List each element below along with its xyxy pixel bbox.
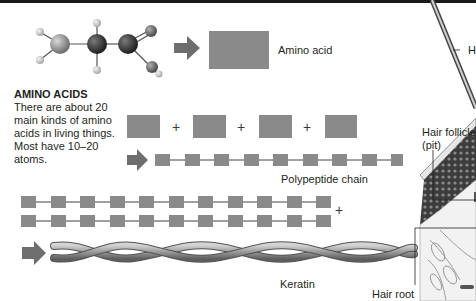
polypeptide-chain: [155, 153, 365, 167]
polypeptide-chain-row-1: [21, 195, 331, 209]
hair-label: H: [468, 44, 476, 57]
plus-sign: +: [172, 120, 180, 134]
amino-acid-label: Amino acid: [278, 44, 332, 57]
description-text: There are about 20 main kinds of amino a…: [14, 101, 124, 166]
keratin-helix: [54, 236, 414, 270]
hair-follicle-label: Hair follicle: [422, 126, 476, 139]
polypeptide-chain-row-2: [21, 214, 331, 228]
amino-acid-block: [127, 115, 160, 138]
plus-sign: +: [303, 120, 311, 134]
amino-acid-block: [325, 115, 357, 138]
plus-sign: +: [335, 203, 343, 217]
keratin-label: Keratin: [280, 278, 315, 291]
arrow-right-icon: [174, 36, 200, 60]
section-heading: AMINO ACIDS: [14, 88, 88, 100]
plus-sign: +: [237, 120, 245, 134]
arrow-right-icon: [127, 149, 148, 171]
amino-acid-molecule-icon: [30, 18, 170, 83]
amino-acid-block: [259, 115, 292, 138]
arrow-right-icon: [22, 241, 46, 265]
hair-root-label: Hair root: [372, 288, 414, 301]
polypeptide-label: Polypeptide chain: [281, 173, 368, 186]
amino-acid-block: [209, 31, 269, 69]
hair-follicle-sub-label: (pit): [422, 139, 441, 152]
amino-acid-block: [193, 115, 226, 138]
